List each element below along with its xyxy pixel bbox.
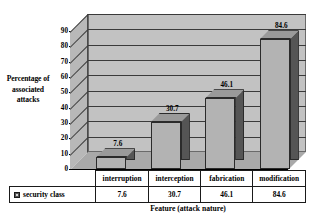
y-tick-label-10: 10: [48, 150, 68, 157]
bar-front-face-interception: [151, 122, 181, 169]
legend-label: security class: [23, 190, 65, 199]
y-tick-label-90: 90: [48, 28, 68, 35]
y-tick-label-30: 30: [48, 120, 68, 127]
y-axis-tick-labels: 0102030405060708090: [48, 14, 68, 170]
bar-side-face-fabrication: [235, 89, 244, 160]
bar-value-label-interception: 30.7: [153, 105, 192, 113]
category-cell-3: modification: [253, 171, 306, 187]
bar-value-label-interruption: 7.6: [98, 140, 137, 148]
y-axis-title-line-3: attacks: [2, 95, 54, 106]
table-row-values: security class 7.6 30.7 46.1 84.6: [10, 187, 306, 203]
category-cell-0: interruption: [96, 171, 149, 187]
bar-modification: [260, 30, 290, 169]
x-axis-title: Feature (attack nature): [70, 204, 306, 214]
y-tick-label-20: 20: [48, 135, 68, 142]
plot-area: 7.630.746.184.6: [70, 14, 306, 170]
value-cell-2: 46.1: [201, 187, 253, 203]
bar-interception: [151, 113, 181, 169]
chart-figure: Percentage of associated attacks 0102030…: [0, 0, 322, 221]
table-row-categories: interruption interception fabrication mo…: [10, 171, 306, 187]
bar-interruption: [96, 148, 126, 169]
bar-fabrication: [205, 89, 235, 169]
category-cell-2: fabrication: [201, 171, 253, 187]
y-tick-label-50: 50: [48, 89, 68, 96]
legend-entry-security-class: security class: [10, 187, 96, 203]
security-class-swatch-icon: [14, 192, 20, 198]
bar-front-face-modification: [260, 39, 290, 169]
y-tick-label-60: 60: [48, 74, 68, 81]
y-axis-title: Percentage of associated attacks: [2, 74, 54, 106]
value-cell-1: 30.7: [148, 187, 200, 203]
bar-front-face-fabrication: [205, 98, 235, 169]
y-tick-label-40: 40: [48, 104, 68, 111]
y-tick-label-80: 80: [48, 43, 68, 50]
table-corner-blank: [10, 171, 96, 187]
chart-data-table: interruption interception fabrication mo…: [9, 170, 306, 203]
bar-series-security-class: 7.630.746.184.6: [70, 14, 306, 170]
bar-value-label-fabrication: 46.1: [207, 81, 246, 89]
y-tick-label-70: 70: [48, 58, 68, 65]
bar-value-label-modification: 84.6: [262, 22, 301, 30]
value-cell-0: 7.6: [96, 187, 149, 203]
category-cell-1: interception: [148, 171, 200, 187]
bar-side-face-modification: [290, 30, 299, 160]
y-axis-title-line-1: Percentage of: [2, 74, 54, 85]
bar-front-face-interruption: [96, 157, 126, 169]
y-axis-title-line-2: associated: [2, 85, 54, 96]
value-cell-3: 84.6: [253, 187, 306, 203]
